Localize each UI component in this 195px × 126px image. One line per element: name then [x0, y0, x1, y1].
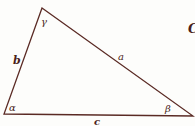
triangle-shape [4, 8, 193, 116]
side-a-label: a [118, 51, 124, 62]
side-c-label: c [94, 116, 100, 126]
partial-figure-label: C [188, 21, 195, 36]
angle-beta-label: β [164, 103, 171, 114]
angle-alpha-label: α [9, 102, 16, 113]
side-b-label: b [13, 54, 21, 67]
angle-gamma-label: γ [41, 16, 47, 27]
triangle-diagram: γ b a α β c C [0, 0, 195, 126]
